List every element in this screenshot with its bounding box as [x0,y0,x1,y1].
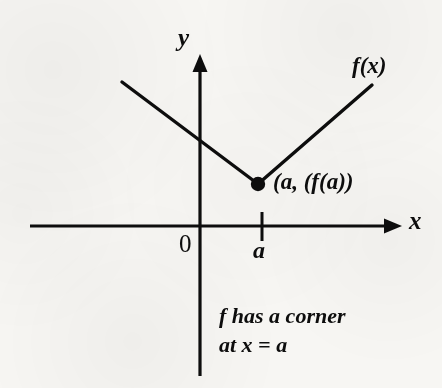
x-axis-group [30,219,402,234]
y-axis-group [193,54,208,376]
corner-point-dot [251,177,265,191]
figure-caption: f has a corner at x = a [219,301,346,359]
caption-line-2: at x = a [219,330,346,359]
y-axis-arrowhead [193,54,208,72]
caption-line-1: f has a corner [219,301,346,330]
x-axis-label: x [409,207,422,234]
curve-left-branch [122,82,258,184]
x-tick-label-a: a [253,238,265,264]
corner-point-label: (a, (f(a)) [273,170,353,195]
calculus-corner-figure: y x 0 a f(x) (a, (f(a)) f has a corner a… [0,0,442,388]
x-axis-arrowhead [384,219,402,234]
y-axis-label: y [178,24,189,51]
origin-label: 0 [179,230,192,257]
function-curve-label: f(x) [352,54,386,79]
